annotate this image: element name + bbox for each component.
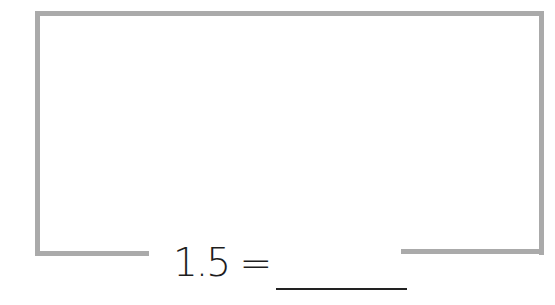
equation-label: 1.5 = bbox=[173, 243, 270, 283]
frame-left-border bbox=[35, 11, 40, 256]
frame-top-border bbox=[35, 11, 544, 16]
answer-blank[interactable] bbox=[276, 288, 407, 290]
frame-bottom-left-border bbox=[35, 251, 149, 256]
frame-right-border bbox=[539, 11, 544, 255]
frame-bottom-right-border bbox=[401, 249, 544, 254]
